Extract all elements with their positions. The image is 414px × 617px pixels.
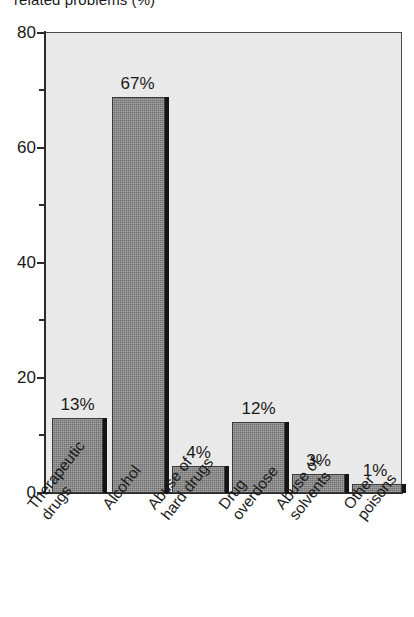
bar-value-alcohol: 67% bbox=[111, 75, 164, 93]
y-tick-40 bbox=[37, 262, 45, 264]
chart-title: related problems (%) bbox=[14, 0, 155, 9]
y-tick-80 bbox=[37, 32, 45, 34]
y-tick-minor-70 bbox=[39, 89, 45, 91]
bar-value-drug-overdose: 12% bbox=[232, 400, 285, 418]
bar-value-therapeutic-drugs: 13% bbox=[52, 396, 103, 414]
y-tick-minor-50 bbox=[39, 204, 45, 206]
y-tick-20 bbox=[37, 377, 45, 379]
y-tick-60 bbox=[37, 147, 45, 149]
bar-alcohol bbox=[112, 97, 165, 493]
y-tick-label-40: 40 bbox=[17, 254, 36, 271]
y-tick-label-60: 60 bbox=[17, 139, 36, 156]
y-tick-minor-10 bbox=[39, 434, 45, 436]
y-tick-minor-30 bbox=[39, 319, 45, 321]
y-tick-label-80: 80 bbox=[17, 24, 36, 41]
bar-chart-figure: related problems (%) 80 60 40 20 0 13% 6… bbox=[0, 0, 414, 617]
y-tick-label-20: 20 bbox=[17, 369, 36, 386]
